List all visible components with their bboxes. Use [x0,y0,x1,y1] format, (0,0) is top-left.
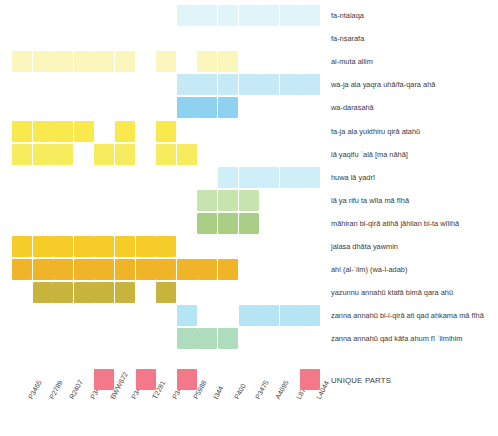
heatmap-cell[interactable] [239,5,259,26]
unique-part-marker[interactable] [300,369,320,390]
heatmap-cell[interactable] [156,121,176,142]
heatmap-cell[interactable] [33,282,53,303]
heatmap-cell[interactable] [53,144,73,165]
heatmap-cell[interactable] [197,97,217,118]
heatmap-cell[interactable] [156,144,176,165]
heatmap-cell[interactable] [197,213,217,234]
heatmap-cell[interactable] [300,74,320,95]
heatmap-cell[interactable] [33,121,53,142]
heatmap-cell[interactable] [280,74,300,95]
heatmap-cell[interactable] [218,74,238,95]
heatmap-cell[interactable] [197,190,217,211]
heatmap-cell[interactable] [177,305,197,326]
row-label: jalasa dhāta yawmin [331,243,398,250]
column-label: P3465 [27,379,43,400]
row-label: wa-darasahā [331,104,374,111]
column-label: A4095 [274,379,290,400]
heatmap-cell[interactable] [177,259,197,280]
unique-part-marker[interactable] [177,369,197,390]
heatmap-cell[interactable] [33,236,53,257]
heatmap-cell[interactable] [218,97,238,118]
heatmap-cell[interactable] [156,236,176,257]
unique-part-marker[interactable] [136,369,156,390]
heatmap-cell[interactable] [239,167,259,188]
row-label: fa-nṣarafa [331,35,364,42]
heatmap-cell[interactable] [53,282,73,303]
row-label: fa-ntalaqa [331,12,364,19]
heatmap-cell[interactable] [197,328,217,349]
heatmap-cell[interactable] [156,51,176,72]
heatmap-cell[interactable] [218,190,238,211]
heatmap-cell[interactable] [197,74,217,95]
heatmap-cell[interactable] [239,305,259,326]
heatmap-cell[interactable] [280,5,300,26]
heatmap-cell[interactable] [33,144,53,165]
heatmap-cell[interactable] [115,121,135,142]
heatmap-cell[interactable] [239,74,259,95]
heatmap-cell[interactable] [259,305,279,326]
column-label: P2789 [48,379,64,400]
heatmap-cell[interactable] [259,167,279,188]
heatmap-cell[interactable] [115,282,135,303]
heatmap-cell[interactable] [115,259,135,280]
heatmap-cell[interactable] [218,5,238,26]
heatmap-cell[interactable] [218,167,238,188]
heatmap-cell[interactable] [74,259,94,280]
heatmap-cell[interactable] [94,259,114,280]
heatmap-cell[interactable] [218,213,238,234]
heatmap-cell[interactable] [197,5,217,26]
heatmap-cell[interactable] [197,51,217,72]
heatmap-cell[interactable] [94,144,114,165]
heatmap-cell[interactable] [259,74,279,95]
heatmap-cell[interactable] [115,236,135,257]
heatmap-cell[interactable] [197,259,217,280]
heatmap-cell[interactable] [156,282,176,303]
heatmap-cell[interactable] [12,236,32,257]
heatmap-cell[interactable] [177,328,197,349]
heatmap-cell[interactable] [12,51,32,72]
heatmap-cell[interactable] [218,259,238,280]
heatmap-cell[interactable] [74,51,94,72]
heatmap-cell[interactable] [300,5,320,26]
heatmap-cell[interactable] [156,259,176,280]
heatmap-cell[interactable] [115,144,135,165]
heatmap-cell[interactable] [239,213,259,234]
heatmap-chart: fa-ntalaqafa-nṣarafaal-muta allimwa-ja a… [0,0,498,436]
row-label: ẓanna annahū qad kāfa ahum fī ʿilmihim [331,335,462,342]
heatmap-cell[interactable] [74,282,94,303]
heatmap-cell[interactable] [74,121,94,142]
heatmap-cell[interactable] [218,328,238,349]
row-label: al-muta allim [331,58,373,65]
heatmap-cell[interactable] [218,51,238,72]
heatmap-cell[interactable] [33,51,53,72]
row-label: huwa lā yadrī [331,174,375,181]
row-label: māhiran bi-qirā atihā jāhilan bi-ta wīli… [331,220,459,227]
heatmap-cell[interactable] [177,97,197,118]
heatmap-cell[interactable] [259,5,279,26]
heatmap-cell[interactable] [300,305,320,326]
heatmap-cell[interactable] [239,190,259,211]
unique-part-marker[interactable] [94,369,114,390]
heatmap-cell[interactable] [33,259,53,280]
heatmap-cell[interactable] [136,259,156,280]
heatmap-cell[interactable] [94,236,114,257]
heatmap-cell[interactable] [12,144,32,165]
heatmap-cell[interactable] [53,51,73,72]
heatmap-cell[interactable] [300,167,320,188]
heatmap-cell[interactable] [177,5,197,26]
heatmap-cell[interactable] [115,51,135,72]
heatmap-cell[interactable] [12,121,32,142]
heatmap-cell[interactable] [94,282,114,303]
heatmap-cell[interactable] [12,259,32,280]
heatmap-cell[interactable] [177,74,197,95]
heatmap-cell[interactable] [53,259,73,280]
row-label: fa-ja ala yukthiru qirā atahū [331,128,420,135]
heatmap-cell[interactable] [280,305,300,326]
heatmap-cell[interactable] [53,236,73,257]
heatmap-cell[interactable] [94,51,114,72]
heatmap-cell[interactable] [53,121,73,142]
heatmap-cell[interactable] [280,167,300,188]
heatmap-cell[interactable] [177,144,197,165]
heatmap-cell[interactable] [74,236,94,257]
heatmap-cell[interactable] [136,236,156,257]
